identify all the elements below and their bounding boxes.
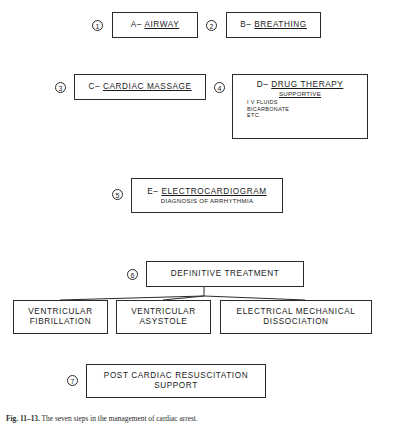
step-box-airway-title: A– AIRWAY [131, 20, 179, 30]
outcome-box-ventricular-asystole: VENTRICULAR ASYSTOLE [116, 300, 211, 334]
step-box-breathing-title: B– BREATHING [240, 20, 307, 30]
outcome-line-2: DISSOCIATION [263, 317, 328, 327]
drug-detail-item: ETC. [247, 112, 289, 119]
figure-caption-label: Fig. 11–13. [6, 414, 40, 423]
step-number-3: 3 [55, 82, 66, 93]
figure-caption: Fig. 11–13. The seven steps in the manag… [6, 414, 406, 423]
step-box-cardiac-massage: C– CARDIAC MASSAGE [74, 74, 206, 100]
figure-caption-text: The seven steps in the management of car… [42, 414, 198, 423]
step-box-post-cardiac-title: POST CARDIAC RESUSCITATION [104, 371, 248, 381]
step-box-drug-therapy-details: I V FLUIDS BICARBONATE ETC. [247, 99, 289, 119]
step-box-electrocardiogram: E– ELECTROCARDIOGRAM DIAGNOSIS OF ARRHYT… [131, 178, 283, 213]
figure-diagram: 1 A– AIRWAY 2 B– BREATHING 3 C– CARDIAC … [0, 0, 410, 430]
outcome-box-electrical-mechanical-dissociation: ELECTRICAL MECHANICAL DISSOCIATION [220, 300, 372, 334]
outcome-line-1: VENTRICULAR [28, 307, 92, 317]
step-box-cardiac-massage-title: C– CARDIAC MASSAGE [88, 82, 191, 92]
step-box-drug-therapy-title: D– DRUG THERAPY [257, 80, 344, 90]
step-box-definitive-treatment-title: DEFINITIVE TREATMENT [171, 269, 280, 279]
step-box-electrocardiogram-title: E– ELECTROCARDIOGRAM [147, 187, 266, 197]
drug-detail-item: BICARBONATE [247, 106, 289, 113]
outcome-box-ventricular-fibrillation: VENTRICULAR FIBRILLATION [13, 300, 108, 334]
outcome-line-1: VENTRICULAR [131, 307, 195, 317]
step-box-breathing: B– BREATHING [226, 12, 321, 38]
step-number-4: 4 [214, 82, 225, 93]
outcome-line-2: FIBRILLATION [30, 317, 92, 327]
step-box-drug-therapy-subtitle: SUPPORTIVE [279, 90, 321, 97]
step-number-5: 5 [112, 189, 123, 200]
step-number-6: 6 [127, 269, 138, 280]
step-box-drug-therapy: D– DRUG THERAPY SUPPORTIVE I V FLUIDS BI… [232, 74, 368, 139]
step-number-7: 7 [67, 375, 78, 386]
drug-detail-item: I V FLUIDS [247, 99, 289, 106]
step-number-2: 2 [206, 20, 217, 31]
outcome-line-1: ELECTRICAL MECHANICAL [237, 307, 356, 317]
step-box-electrocardiogram-subtitle: DIAGNOSIS OF ARRHYTHMIA [161, 197, 254, 204]
outcome-line-2: ASYSTOLE [140, 317, 188, 327]
step-box-definitive-treatment: DEFINITIVE TREATMENT [146, 261, 304, 287]
step-box-airway: A– AIRWAY [112, 12, 198, 38]
step-box-post-cardiac-subtitle: SUPPORT [154, 381, 198, 391]
step-box-post-cardiac-resuscitation: POST CARDIAC RESUSCITATION SUPPORT [86, 364, 266, 398]
step-number-1: 1 [92, 20, 103, 31]
